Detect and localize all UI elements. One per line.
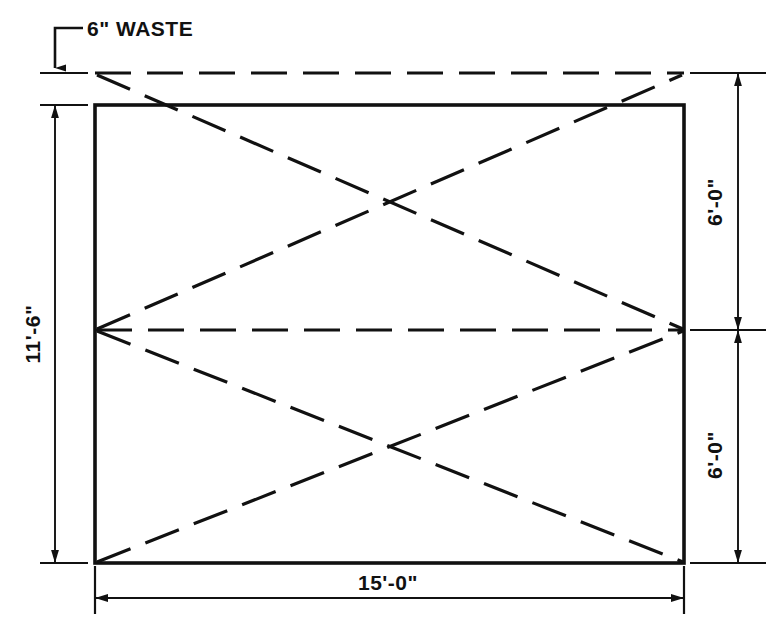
dimension-drawing-svg: 6" WASTE	[0, 0, 776, 644]
technical-drawing-canvas: 6" WASTE	[0, 0, 776, 644]
waste-note-label: 6" WASTE	[87, 17, 193, 40]
right-lower-dimension-label: 6'-0"	[703, 431, 726, 479]
right-upper-dimension-label: 6'-0"	[703, 178, 726, 226]
bottom-dimension-label: 15'-0"	[358, 571, 418, 594]
left-dimension-label: 11'-6"	[21, 305, 44, 364]
